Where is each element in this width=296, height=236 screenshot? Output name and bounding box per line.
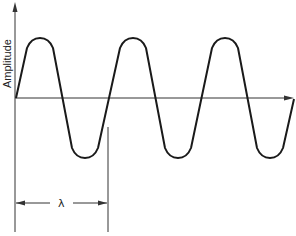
y-axis-label: Amplitude [1,39,13,88]
x-axis-arrow-icon [284,96,294,101]
wave-diagram: Amplitude λ [0,0,296,236]
wavelength-label: λ [58,197,65,210]
y-axis-arrow-icon [13,2,18,12]
arrow-right-icon [98,201,107,206]
arrow-left-icon [16,201,25,206]
